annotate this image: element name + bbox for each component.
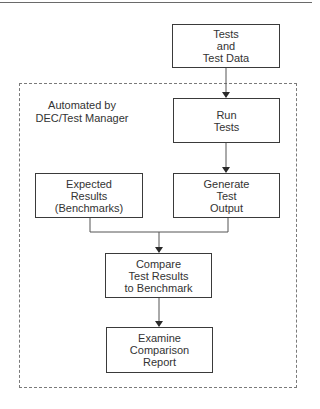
- node-tests-and-test-data: Tests and Test Data: [172, 24, 280, 68]
- node-label: Examine Comparison Report: [130, 332, 189, 368]
- node-examine-comparison-report: Examine Comparison Report: [106, 327, 213, 373]
- node-label: Tests and Test Data: [203, 28, 249, 64]
- node-label: Generate Test Output: [204, 178, 250, 214]
- node-run-tests: Run Tests: [173, 98, 280, 143]
- node-expected-results: Expected Results (Benchmarks): [35, 173, 143, 218]
- node-label: Run Tests: [214, 109, 240, 133]
- node-compare-test-results: Compare Test Results to Benchmark: [105, 253, 212, 298]
- node-generate-test-output: Generate Test Output: [173, 173, 280, 218]
- node-label: Compare Test Results to Benchmark: [125, 258, 193, 294]
- node-label: Expected Results (Benchmarks): [55, 178, 123, 214]
